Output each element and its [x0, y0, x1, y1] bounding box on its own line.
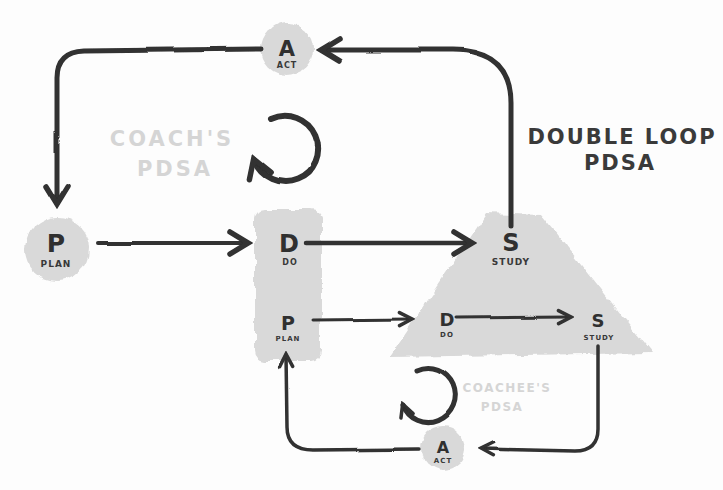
coachee-plan-label: PLAN	[276, 335, 301, 343]
title-line1: DOUBLE LOOP	[527, 125, 716, 149]
cycle-arrow-icon	[254, 116, 318, 182]
coach-loop-watermark: COACH'S PDSA	[110, 127, 235, 181]
title-line2: PDSA	[584, 151, 656, 175]
coachee-study-letter: S	[592, 310, 605, 331]
coachee-plan-letter: P	[281, 312, 295, 334]
double-loop-pdsa-diagram: COACH'S PDSA COACHEE'S PDSA A ACT P PLAN…	[0, 0, 723, 490]
coach-study-label: STUDY	[492, 257, 530, 267]
coach-act-letter: A	[279, 37, 296, 61]
coachee-do-letter: D	[440, 309, 455, 330]
coachee-arrow-plan-to-do	[313, 319, 411, 320]
coach-act-label: ACT	[277, 61, 298, 70]
coachee-watermark-line1: COACHEE'S	[462, 381, 551, 395]
coach-arrow-study-to-act	[322, 50, 511, 226]
coachee-arrow-do-to-study	[456, 317, 570, 318]
coachee-arrow-study-to-act	[482, 346, 598, 451]
coachee-study-label: STUDY	[584, 334, 615, 342]
coach-watermark-line1: COACH'S	[110, 127, 235, 151]
coach-study-letter: S	[502, 229, 519, 257]
coachee-do-node: D DO	[440, 309, 455, 339]
coach-do-letter: D	[279, 230, 299, 258]
coach-do-label: DO	[282, 258, 297, 267]
coachee-do-label: DO	[440, 331, 454, 339]
coachee-watermark-line2: PDSA	[481, 400, 524, 414]
cycle-arrow-icon	[403, 369, 455, 423]
coachee-loop-watermark: COACHEE'S PDSA	[462, 381, 551, 414]
coach-plan-letter: P	[47, 229, 65, 258]
coachee-act-letter: A	[437, 438, 450, 457]
coach-plan-label: PLAN	[41, 259, 72, 269]
coachee-act-label: ACT	[434, 457, 452, 465]
coach-do-node: D DO	[279, 230, 299, 267]
coach-watermark-line2: PDSA	[137, 157, 213, 181]
coachee-arrow-act-to-plan	[286, 356, 419, 450]
diagram-title: DOUBLE LOOP PDSA	[527, 125, 716, 175]
coach-act-node: A ACT	[277, 37, 298, 70]
